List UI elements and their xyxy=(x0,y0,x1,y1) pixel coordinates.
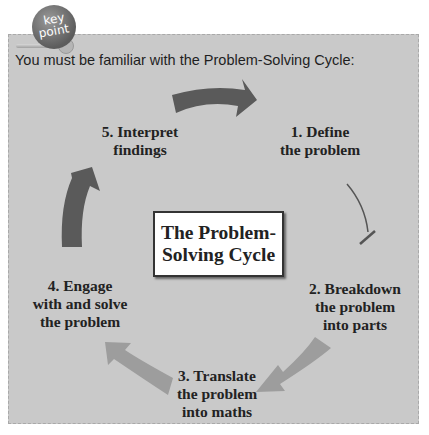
step-4-line-2: with and solve xyxy=(15,295,145,313)
cycle-title-line-2: Solving Cycle xyxy=(161,244,276,266)
step-3-label: 3. Translate the problem into maths xyxy=(162,367,272,421)
step-3-line-1: 3. Translate xyxy=(162,367,272,385)
step-5-label: 5. Interpret findings xyxy=(75,123,205,159)
intro-text: You must be familiar with the Problem-So… xyxy=(15,52,355,68)
arrow-1-to-2-icon xyxy=(347,184,368,232)
step-2-label: 2. Breakdown the problem into parts xyxy=(290,280,420,334)
step-3-line-2: the problem xyxy=(162,385,272,403)
step-4-label: 4. Engage with and solve the problem xyxy=(15,277,145,331)
step-2-line-2: the problem xyxy=(290,298,420,316)
step-4-line-3: the problem xyxy=(15,313,145,331)
cycle-title-line-1: The Problem- xyxy=(161,222,276,244)
step-1-label: 1. Define the problem xyxy=(250,123,390,159)
step-5-line-1: 5. Interpret xyxy=(75,123,205,141)
key-point-badge: key point xyxy=(32,5,76,49)
step-1-line-1: 1. Define xyxy=(250,123,390,141)
cycle-title-box: The Problem- Solving Cycle xyxy=(153,211,284,277)
step-5-line-2: findings xyxy=(75,141,205,159)
step-2-line-1: 2. Breakdown xyxy=(290,280,420,298)
arrow-4-to-5-icon xyxy=(62,167,100,247)
step-4-line-1: 4. Engage xyxy=(15,277,145,295)
arrow-1-to-2-tip-icon xyxy=(360,231,375,244)
step-2-line-3: into parts xyxy=(290,316,420,334)
step-1-line-2: the problem xyxy=(250,141,390,159)
step-3-line-3: into maths xyxy=(162,403,272,421)
arrow-5-to-1-icon xyxy=(172,79,257,117)
